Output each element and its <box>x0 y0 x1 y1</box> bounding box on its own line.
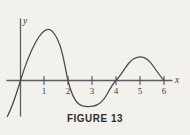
function-curve <box>7 29 164 116</box>
figure-container: 1 2 3 4 5 6 x y FIGURE 13 <box>0 0 190 135</box>
x-axis-label: x <box>174 75 180 85</box>
x-tick-label-5: 5 <box>138 86 143 96</box>
y-axis-label: y <box>22 16 28 26</box>
x-tick-label-6: 6 <box>162 86 167 96</box>
figure-caption: FIGURE 13 <box>10 112 181 124</box>
x-tick-label-1: 1 <box>42 86 47 96</box>
x-tick-label-3: 3 <box>90 86 95 96</box>
x-tick-label-2: 2 <box>66 86 71 96</box>
x-tick-label-4: 4 <box>114 86 119 96</box>
